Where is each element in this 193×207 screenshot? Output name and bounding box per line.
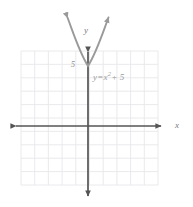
graph-figure: y x 5 y=x2+ 5	[0, 0, 193, 207]
x-axis-label: x	[175, 120, 179, 130]
axes	[16, 52, 161, 196]
y-intercept-tick-label: 5	[71, 60, 75, 69]
y-axis-label: y	[84, 25, 88, 35]
grid-lines	[21, 51, 158, 185]
equation-tail: + 5	[111, 72, 124, 82]
coordinate-plane-svg	[0, 0, 193, 207]
equation-label: y=x2+ 5	[93, 72, 125, 82]
